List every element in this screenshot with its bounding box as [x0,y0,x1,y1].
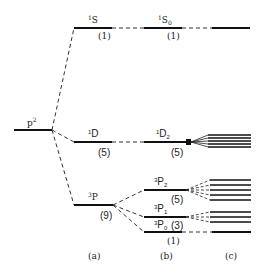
level-label-3P0: 3P0 [154,219,168,231]
term-label-1D: 1D [88,128,99,139]
level-degeneracy-3P2: (5) [171,194,183,205]
term-degeneracy-1D: (5) [98,147,110,158]
energy-level-diagram: p2 1S (1) 1D (5) 3P (9) 1S0 (1) 1D2 (5) … [0,0,265,277]
connector-3P-3P1 [113,205,144,217]
connector-p2-3P [52,130,74,205]
term-label-3P: 3P [88,191,98,202]
level-label-1S0: 1S0 [158,14,172,26]
term-degeneracy-1S: (1) [98,31,111,41]
level-degeneracy-3P0: (1) [167,236,180,246]
column-label-b: (b) [160,251,173,261]
term-label-1S: 1S [88,14,98,25]
column-label-a: (a) [88,251,100,261]
sublevels-3P2 [210,180,251,200]
level-label-3P1: 3P1 [154,203,168,215]
fan-3P2 [186,180,210,200]
sublevels-1D2 [208,135,251,147]
connector-3P-3P2 [113,190,144,205]
sublevels-3P1 [210,212,251,222]
fan-3P1 [186,212,210,222]
fan-1D2 [186,135,208,147]
connector-p2-1S [52,28,74,130]
level-label-1D2: 1D2 [156,128,171,140]
level-degeneracy-1D2: (5) [171,147,183,158]
level-degeneracy-3P1: (3) [171,220,183,231]
level-degeneracy-1S0: (1) [167,31,180,41]
term-degeneracy-3P: (9) [100,210,112,221]
level-label-3P2: 3P2 [154,176,168,188]
connector-3P-3P0 [113,205,144,232]
config-label: p2 [27,116,37,128]
column-label-c: (c) [225,251,237,261]
